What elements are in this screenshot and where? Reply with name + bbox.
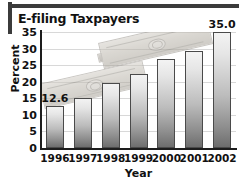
bar-chart: 05101520253035 Percent 19961997199819992… — [0, 0, 239, 182]
x-axis-title: Year — [41, 167, 236, 180]
x-axis-tick-label-2002: 2002 — [206, 152, 238, 164]
bar-1999 — [130, 74, 148, 148]
y-axis-line — [40, 30, 42, 150]
plot-area — [41, 32, 236, 148]
bar-2001 — [185, 51, 203, 148]
y-axis-tick-label: 10 — [1, 110, 37, 121]
bar-2002 — [213, 32, 231, 148]
bar-1997 — [74, 98, 92, 148]
bar-1998 — [102, 83, 120, 148]
bar-1996 — [46, 106, 64, 148]
x-axis-line — [40, 148, 237, 150]
y-axis-tick-label: 5 — [1, 126, 37, 137]
bar-value-label-1996: 12.6 — [38, 92, 72, 105]
y-axis-title: Percent — [9, 31, 22, 107]
y-axis-tick-label: 0 — [1, 143, 37, 154]
bar-2000 — [157, 59, 175, 148]
bar-value-label-2002: 35.0 — [205, 18, 239, 31]
